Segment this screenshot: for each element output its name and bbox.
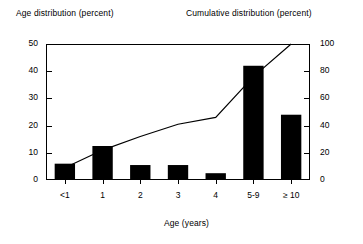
x-axis-title: Age (years) <box>0 218 363 228</box>
left-tick-label: 30 <box>12 92 38 102</box>
bar <box>243 66 263 180</box>
x-tick-mark <box>216 180 217 184</box>
left-tick-label: 20 <box>12 120 38 130</box>
right-tick-label: 20 <box>320 147 329 157</box>
right-tick-label: 80 <box>320 65 329 75</box>
right-tick-label: 60 <box>320 92 329 102</box>
x-tick-label: ≥ 10 <box>269 190 313 200</box>
x-axis-title-text: Age (years) <box>154 218 209 228</box>
x-tick-mark <box>291 180 292 184</box>
left-tick-label: 50 <box>12 38 38 48</box>
x-tick-mark <box>103 180 104 184</box>
x-tick-mark <box>140 180 141 184</box>
left-tick-mark <box>47 126 52 127</box>
bar <box>55 164 75 180</box>
right-tick-mark <box>304 153 309 154</box>
left-tick-label: 0 <box>12 174 38 184</box>
x-tick-mark <box>65 180 66 184</box>
bar <box>206 173 226 180</box>
left-tick-mark <box>47 71 52 72</box>
bar <box>281 115 301 180</box>
plot-canvas <box>46 44 310 180</box>
right-axis-title: Cumulative distribution (percent) <box>186 8 312 18</box>
x-tick-mark <box>253 180 254 184</box>
x-tick-mark <box>178 180 179 184</box>
left-axis-title: Age distribution (percent) <box>16 8 114 18</box>
bar <box>92 146 112 180</box>
right-tick-label: 100 <box>320 38 334 48</box>
bar <box>130 165 150 180</box>
chart-figure: Age distribution (percent) Cumulative di… <box>0 0 363 244</box>
right-tick-label: 0 <box>320 174 325 184</box>
left-tick-mark <box>47 153 52 154</box>
left-tick-label: 40 <box>12 65 38 75</box>
right-tick-mark <box>304 71 309 72</box>
right-tick-label: 40 <box>320 120 329 130</box>
bar-series <box>55 66 302 180</box>
bar <box>168 165 188 180</box>
right-tick-mark <box>304 98 309 99</box>
right-tick-mark <box>304 126 309 127</box>
left-tick-mark <box>47 98 52 99</box>
left-tick-label: 10 <box>12 147 38 157</box>
